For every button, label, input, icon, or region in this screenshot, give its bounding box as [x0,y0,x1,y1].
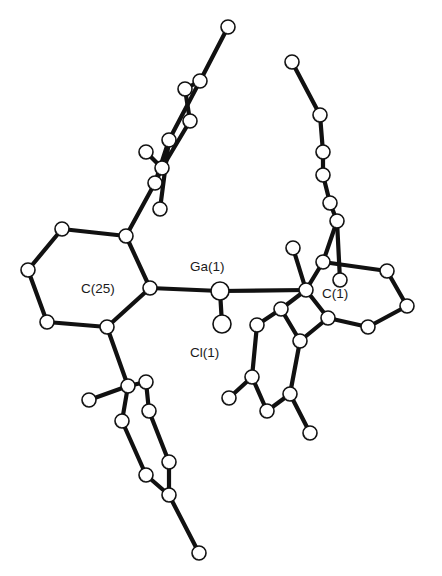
bond [62,229,126,236]
atom-r4 [380,264,394,278]
bond [150,288,220,291]
atom-r5 [400,299,414,313]
label-cl1: Cl(1) [190,345,219,360]
atom-ul3 [139,145,153,159]
bond [200,27,228,81]
atom-lr1 [274,302,288,316]
bond [126,236,150,288]
atom-c1 [299,283,313,297]
bond [122,421,146,475]
atom-ur5 [285,55,299,69]
atom-ga1 [211,282,229,300]
atom-ur1 [330,214,344,228]
bond [323,262,387,271]
bond [252,325,257,377]
atom-layer [21,20,414,560]
atom-me1 [286,241,300,255]
atom-lr5 [283,387,297,401]
atom-lr4 [245,370,259,384]
atom-ll2 [139,375,153,389]
bond [169,495,199,553]
atom-ll6 [162,455,176,469]
atom-r6 [361,320,375,334]
bond [107,327,128,386]
atom-l3 [55,222,69,236]
atom-r7 [321,311,335,325]
atom-l6 [100,320,114,334]
atom-ur3 [316,145,330,159]
atom-ur4 [313,108,327,122]
atom-lr8 [303,426,317,440]
atom-ul1 [148,176,162,190]
atom-ll1 [121,379,135,393]
bond [126,183,155,236]
atom-ll9 [192,546,206,560]
bond [149,411,169,462]
bond [292,62,320,115]
atom-r3 [333,273,347,287]
label-ga1: Ga(1) [190,259,225,274]
bond [220,290,306,291]
atom-lr7 [260,404,274,418]
atom-ll7 [139,468,153,482]
atom-l2 [119,229,133,243]
atom-ul4 [162,133,176,147]
atom-ul8 [221,20,235,34]
atom-lr3 [293,334,307,348]
atom-cl1 [213,315,231,333]
atom-lr6 [222,391,236,405]
label-c25: C(25) [81,281,115,296]
atom-ur6 [323,196,337,210]
atom-lr2 [250,318,264,332]
atom-ur2 [316,168,330,182]
label-c1: C(1) [322,286,348,301]
atom-ll8 [162,488,176,502]
atom-ll3 [142,404,156,418]
atom-l5 [40,315,54,329]
atom-ul7 [193,74,207,88]
molecular-structure-diagram: Ga(1) Cl(1) C(25) C(1) [0,0,442,576]
atom-ul9 [153,202,167,216]
atom-ll4 [82,393,96,407]
atom-l4 [21,263,35,277]
atom-r2 [316,255,330,269]
atom-ul6 [178,82,192,96]
bond [47,322,107,327]
bond [28,270,47,322]
atom-ll5 [115,414,129,428]
atom-ul2 [155,161,169,175]
bond [28,229,62,270]
bond [337,221,340,280]
atom-c25 [143,281,157,295]
bond [290,341,300,394]
atom-ul5 [183,114,197,128]
